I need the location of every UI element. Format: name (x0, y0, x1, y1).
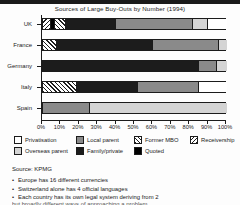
legend-swatch-local (76, 136, 84, 144)
y-tick (37, 87, 41, 88)
legend-label: Local parent (87, 137, 119, 143)
bar-france[interactable] (42, 39, 226, 51)
bar-italy[interactable] (42, 81, 226, 93)
category-label-uk: UK (24, 21, 32, 27)
legend-swatch-recv (190, 136, 198, 144)
legend-label: Receivership (201, 137, 235, 143)
bullet-icon: • (12, 176, 14, 185)
x-tick-label: 0% (31, 124, 51, 130)
plot-area (42, 15, 226, 120)
segment-local[interactable] (152, 40, 218, 50)
legend-swatch-priv (14, 136, 22, 144)
x-axis-tick-labels: 0%10%20%30%40%50%60%70%80%90%100% (0, 124, 240, 133)
segment-local[interactable] (43, 103, 89, 113)
y-tick (37, 66, 41, 67)
segment-over[interactable] (89, 103, 227, 113)
legend-label: Family/private (87, 148, 123, 154)
chart-title: Sources of Large Buy-Outs by Number (199… (0, 5, 240, 12)
segment-mbo[interactable] (43, 82, 76, 92)
category-label-germany: Germany (7, 63, 32, 69)
source-note: Source: KPMG (12, 166, 52, 172)
bar-spain[interactable] (42, 102, 226, 114)
legend-swatch-fam (76, 147, 84, 155)
bar-uk[interactable] (42, 18, 226, 30)
segment-mbo[interactable] (43, 40, 56, 50)
segment-local[interactable] (137, 82, 198, 92)
segment-fam[interactable] (43, 61, 198, 71)
x-tick-label: 100% (215, 124, 235, 130)
bar-track (42, 18, 226, 30)
category-label-spain: Spain (17, 105, 32, 111)
legend-swatch-mbo (134, 136, 142, 144)
segment-over[interactable] (218, 40, 227, 50)
segment-fam[interactable] (65, 19, 115, 29)
y-tick (37, 24, 41, 25)
segment-mbo[interactable] (54, 19, 65, 29)
segment-fam[interactable] (56, 40, 152, 50)
bar-germany[interactable] (42, 60, 226, 72)
x-tick-label: 30% (86, 124, 106, 130)
legend-label: Former MBO (145, 137, 179, 143)
footnote-item: •Switzerland alone has 4 official langua… (12, 185, 234, 194)
x-tick-label: 90% (197, 124, 217, 130)
x-tick-label: 20% (68, 124, 88, 130)
x-tick-label: 60% (141, 124, 161, 130)
bar-track (42, 60, 226, 72)
category-label-france: France (13, 42, 32, 48)
segment-over[interactable] (192, 19, 207, 29)
footnote-list: •Europe has 16 different currencies•Swit… (12, 176, 234, 202)
x-tick-label: 10% (49, 124, 69, 130)
legend-swatch-over (14, 147, 22, 155)
y-tick (37, 45, 41, 46)
bar-track (42, 39, 226, 51)
category-axis-labels: UKFranceGermanyItalySpain (0, 15, 38, 121)
legend-swatch-quoted (134, 147, 142, 155)
x-tick-label: 70% (160, 124, 180, 130)
bullet-icon: • (12, 185, 14, 194)
top-rule (0, 0, 240, 4)
footnote-text: Europe has 16 different currencies (18, 177, 108, 183)
legend-label: Overseas parent (25, 148, 68, 154)
footnote-text: Switzerland alone has 4 official languag… (18, 186, 128, 192)
legend-label: Privatisation (25, 137, 57, 143)
segment-over[interactable] (216, 61, 227, 71)
bar-track (42, 81, 226, 93)
segment-fam[interactable] (76, 82, 137, 92)
footnote-clipped: but broadly different ways of approachin… (12, 201, 234, 205)
x-tick-label: 80% (178, 124, 198, 130)
category-label-italy: Italy (21, 84, 32, 90)
segment-local[interactable] (115, 19, 192, 29)
x-tick-label: 50% (123, 124, 143, 130)
legend-label: Quoted (145, 148, 164, 154)
y-tick (37, 108, 41, 109)
chart-legend: PrivatisationLocal parentFormer MBORecei… (14, 136, 232, 158)
segment-priv[interactable] (198, 82, 227, 92)
x-tick-label: 40% (105, 124, 125, 130)
footnote-item: •Europe has 16 different currencies (12, 176, 234, 185)
footnote-text: Each country has its own legal system de… (18, 194, 158, 200)
segment-recv[interactable] (43, 19, 50, 29)
bar-track (42, 102, 226, 114)
segment-local[interactable] (198, 61, 216, 71)
segment-priv[interactable] (207, 19, 227, 29)
